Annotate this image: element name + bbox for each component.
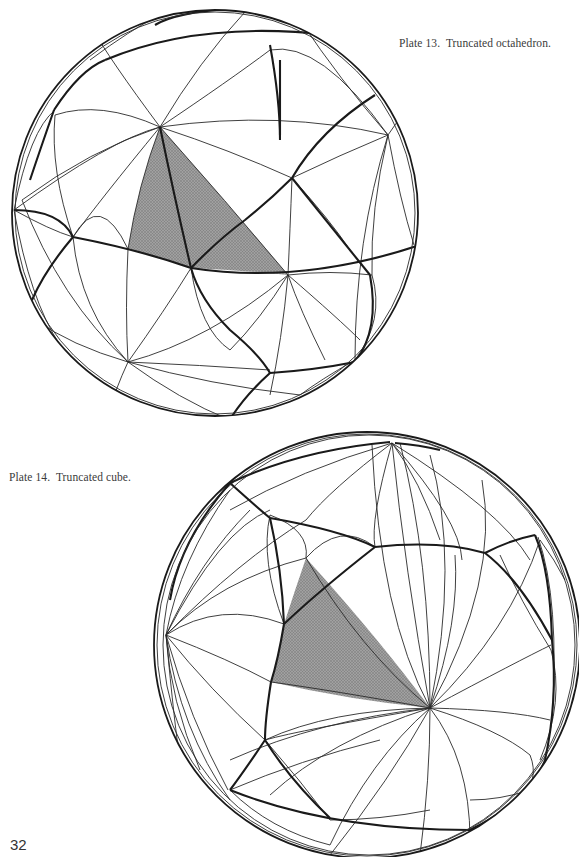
page-number: 32 bbox=[10, 836, 27, 853]
plate-14-caption: Plate 14. Truncated cube. bbox=[9, 471, 131, 483]
book-page: Plate 13. Truncated octahedron. Plate 14… bbox=[0, 0, 579, 857]
plate-13-caption: Plate 13. Truncated octahedron. bbox=[399, 37, 551, 49]
plate-13-sphere bbox=[12, 8, 420, 428]
plate-14-sphere bbox=[154, 432, 579, 857]
plate-figures bbox=[0, 0, 579, 857]
